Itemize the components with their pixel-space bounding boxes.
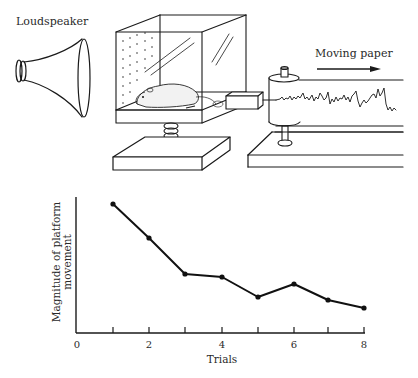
base-platform	[113, 137, 230, 170]
data-point	[146, 235, 151, 240]
data-point	[182, 271, 187, 276]
moving-paper	[275, 80, 403, 132]
figure: Loudspeaker	[0, 0, 418, 378]
line-chart: 0 2 4 6 8 Trials Magnitude of platform m…	[50, 197, 367, 365]
data-point	[219, 274, 224, 279]
apparatus-diagram: Loudspeaker	[16, 15, 403, 170]
recorder-base	[248, 132, 403, 167]
x-tick-label: 4	[219, 339, 225, 350]
rat-icon	[136, 84, 223, 108]
moving-paper-label: Moving paper	[315, 47, 393, 60]
x-ticks	[113, 327, 364, 333]
data-points	[110, 201, 366, 310]
data-point	[255, 294, 260, 299]
y-axis-label: Magnitude of platform movement	[50, 202, 73, 322]
data-point	[325, 297, 330, 302]
x-tick-label: 2	[146, 339, 152, 350]
data-point	[110, 201, 115, 206]
loudspeaker-label: Loudspeaker	[16, 15, 89, 28]
arrow-right-icon	[317, 66, 381, 72]
x-axis-label: Trials	[207, 353, 237, 365]
data-point	[361, 305, 366, 310]
y-axis-label-line2: movement	[61, 233, 73, 289]
x-tick-label: 8	[361, 339, 367, 350]
data-series-line	[113, 204, 364, 308]
x-tick-labels: 0 2 4 6 8	[74, 339, 367, 350]
data-point	[291, 281, 296, 286]
loudspeaker-icon	[16, 39, 90, 117]
recording-drum	[269, 67, 300, 147]
x-tick-label: 0	[74, 339, 80, 350]
x-tick-label: 6	[291, 339, 297, 350]
